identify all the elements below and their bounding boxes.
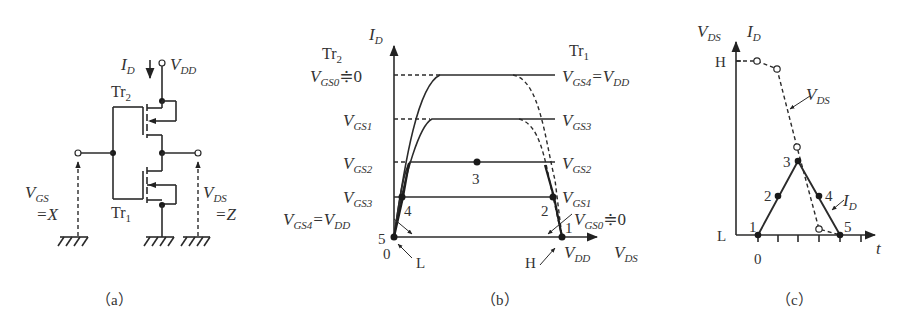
point-label-4: 4 [825, 188, 833, 204]
operating-point-2 [550, 194, 557, 201]
high-label: H [525, 255, 536, 271]
vds-axis-label: VDS [614, 243, 638, 264]
ground-icon [144, 237, 174, 246]
tr2-label: Tr2 [111, 83, 131, 103]
right-label-vgs2: VGS2 [562, 154, 592, 175]
id-label: ID [120, 55, 135, 76]
id-axis-label: ID [746, 22, 761, 43]
origin-label: 0 [383, 246, 391, 262]
panel-b-characteristics: ID Tr2 Tr1 VGS0≑0 VGS1 VGS2 VGS3 VGS4=VD… [283, 25, 638, 308]
tr1-label: Tr1 [111, 204, 131, 224]
caption-a: （a） [96, 292, 133, 308]
operating-point-5 [391, 234, 398, 241]
operating-point-4 [399, 194, 406, 201]
point-label-4: 4 [404, 203, 412, 219]
right-label-vgs3: VGS3 [562, 111, 592, 132]
vgs-label: VGS [25, 183, 49, 204]
point-label-1: 1 [749, 219, 757, 235]
caption-c: （c） [776, 292, 813, 308]
left-label-vgs4: VGS4=VDD [283, 210, 350, 231]
id-curve-label: ID [842, 191, 857, 212]
vds-axis-label: VDS [697, 22, 721, 43]
low-label: L [416, 255, 425, 271]
id-axis-label: ID [368, 25, 383, 46]
panel-a-circuit: ID VDD Tr2 Tr1 VGS =X VDS =Z （a） [25, 55, 236, 308]
input-terminal [75, 150, 81, 156]
right-label-vgs4: VGS4=VDD [562, 67, 629, 88]
vgs-equals-x: =X [36, 205, 58, 224]
ground-icon [58, 237, 88, 246]
ground-icon [181, 237, 210, 246]
tr1-label: Tr1 [569, 42, 589, 62]
left-label-vgs3: VGS3 [343, 188, 373, 209]
point-label-5: 5 [378, 231, 386, 247]
left-label-vgs1: VGS1 [343, 111, 372, 132]
tr2-curve-vgs0 [394, 75, 555, 237]
t-axis-label: t [876, 239, 882, 258]
vds-curve-label: VDS [806, 85, 830, 106]
operating-point-3 [474, 159, 481, 166]
vds-label: VDS [203, 183, 227, 204]
vds-equals-z: =Z [215, 205, 236, 224]
left-label-vgs2: VGS2 [343, 154, 373, 175]
vdd-terminal [159, 60, 165, 66]
high-label: H [715, 54, 726, 70]
point-label-3: 3 [472, 171, 480, 187]
point-label-5: 5 [844, 219, 852, 235]
figure-canvas: ID VDD Tr2 Tr1 VGS =X VDS =Z （a） [0, 0, 914, 320]
point-label-2: 2 [764, 188, 772, 204]
vdd-axis-label: VDD [564, 243, 590, 264]
caption-b: （b） [481, 292, 519, 308]
tr2-label: Tr2 [322, 45, 342, 65]
point-label-3: 3 [783, 154, 791, 170]
output-terminal [195, 150, 201, 156]
origin-label: 0 [754, 251, 762, 267]
right-label-vgs0: VGS0≑0 [574, 210, 626, 231]
vdd-label: VDD [170, 55, 196, 76]
point-label-1: 1 [565, 220, 573, 236]
left-label-vgs0: VGS0≑0 [310, 67, 362, 88]
point-label-2: 2 [541, 203, 549, 219]
panel-c-waveforms: VDS ID H L 0 t VDS ID 1 2 3 4 5 （c） [697, 22, 882, 308]
low-label: L [717, 228, 726, 244]
right-label-vgs1: VGS1 [562, 188, 591, 209]
